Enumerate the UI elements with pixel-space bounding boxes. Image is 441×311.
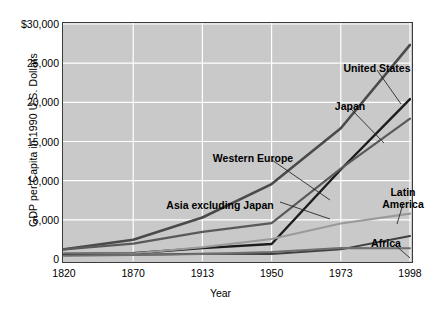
gdp-per-capita-line-chart: GDP per Capita in 1990 U.S. Dollars $30,… <box>0 0 441 311</box>
y-tick-label: 10,000 <box>3 175 59 187</box>
series-line-japan <box>64 99 410 254</box>
y-tick-label: 5,000 <box>3 214 59 226</box>
y-axis-tick-labels: $30,00025,00020,00015,00010,0005,0000 <box>0 0 59 311</box>
x-tick-label: 1950 <box>260 267 283 279</box>
gridlines <box>63 23 411 261</box>
series-label-africa: Africa <box>371 237 401 249</box>
y-tick-label: 0 <box>3 253 59 265</box>
y-tick-label: 15,000 <box>3 136 59 148</box>
series-label-asia-excluding-japan: Asia excluding Japan <box>166 199 273 211</box>
series-label-japan: Japan <box>335 100 365 112</box>
series-label-text: Western Europe <box>213 152 293 164</box>
series-label-text: Asia excluding Japan <box>166 199 273 211</box>
series-line-western-europe <box>64 119 410 250</box>
x-tick-label: 1820 <box>52 267 75 279</box>
series-label-text: Latin <box>382 186 423 198</box>
series-label-united-states: United States <box>343 62 410 74</box>
series-label-text: Africa <box>371 237 401 249</box>
plot-svg <box>63 23 411 261</box>
x-tick-label: 1913 <box>191 267 214 279</box>
plot-area <box>62 22 413 263</box>
series-lines <box>64 45 410 256</box>
series-line-united-states <box>64 45 410 249</box>
x-tick-label: 1973 <box>329 267 352 279</box>
x-tick-label: 1998 <box>398 267 421 279</box>
y-tick-label: 20,000 <box>3 96 59 108</box>
series-label-latin-america: LatinAmerica <box>382 186 423 210</box>
x-axis-title: Year <box>0 287 441 299</box>
y-tick-label: $30,000 <box>3 18 59 30</box>
series-label-text: America <box>382 198 423 210</box>
y-tick-label: 25,000 <box>3 57 59 69</box>
x-tick-label: 1870 <box>122 267 145 279</box>
series-label-western-europe: Western Europe <box>213 152 293 164</box>
series-label-text: United States <box>343 62 410 74</box>
series-label-text: Japan <box>335 100 365 112</box>
